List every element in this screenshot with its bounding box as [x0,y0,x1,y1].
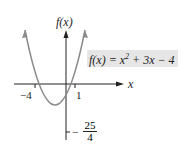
x-axis-arrow-icon [116,82,124,87]
fraction-denominator: 4 [83,132,97,143]
function-rhs: + 3x − 4 [129,53,175,67]
min-value-fraction: 25 4 [83,120,97,143]
x-axis-label: x [128,77,133,92]
y-axis-arrow-icon [64,30,69,38]
curve-right-arrow-icon [83,30,89,38]
function-lhs: f(x) = x [89,53,125,67]
y-axis-label: f(x) [56,15,73,30]
min-value-minus: − [72,126,78,138]
x-tick-label-neg4: −4 [20,89,32,101]
function-label: f(x) = x2 + 3x − 4 [89,52,175,68]
x-tick-label-1: 1 [76,89,82,101]
curve-left-arrow-icon [22,30,28,38]
